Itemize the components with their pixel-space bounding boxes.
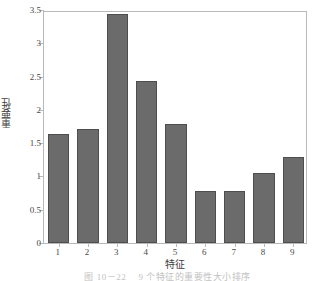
figure: 重要性 00.511.522.533.5 123456789 特征 图 10－2… <box>0 0 335 281</box>
bar <box>48 134 69 243</box>
x-tick-label: 4 <box>143 247 148 257</box>
x-tick-label: 2 <box>85 247 90 257</box>
y-axis-label: 重要性 <box>1 98 13 128</box>
bar <box>195 191 216 243</box>
plot-area: 00.511.522.533.5 <box>44 12 306 243</box>
x-tick-label: 6 <box>202 247 207 257</box>
x-tick-label: 9 <box>290 247 295 257</box>
y-tick-label: 2 <box>37 105 42 114</box>
y-tick-label: 0.5 <box>30 205 41 214</box>
y-tick-label: 3 <box>37 39 42 48</box>
bar <box>165 124 186 243</box>
y-tick-label: 0 <box>37 239 42 248</box>
x-tick-label: 5 <box>173 247 178 257</box>
bar <box>283 157 304 243</box>
bar <box>224 191 245 243</box>
x-tick-label: 7 <box>231 247 236 257</box>
bar <box>77 129 98 243</box>
y-tick-label: 1 <box>37 172 42 181</box>
figure-caption: 图 10－22 9 个特征的重要性大小排序 <box>0 272 335 281</box>
y-tick-label: 1.5 <box>30 139 41 148</box>
y-tick-label: 3.5 <box>30 6 41 15</box>
y-tick-label: 2.5 <box>30 72 41 81</box>
x-tick-label: 8 <box>261 247 266 257</box>
bar <box>136 81 157 243</box>
bar <box>107 14 128 243</box>
x-tick-label: 1 <box>55 247 60 257</box>
x-tick-label: 3 <box>114 247 119 257</box>
plot-frame: 00.511.522.533.5 <box>43 11 307 244</box>
bar <box>253 173 274 243</box>
x-axis-label: 特征 <box>43 259 307 270</box>
